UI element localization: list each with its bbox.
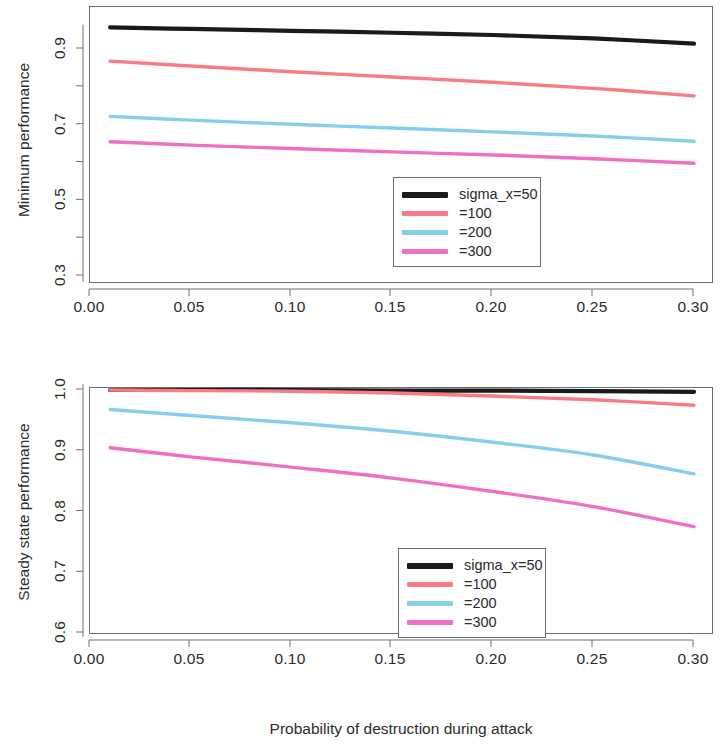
legend-item: =200 [402,223,530,242]
legend-minimum-performance: sigma_x=50=100=200=300 [393,177,541,267]
x-axis-title: Probability of destruction during attack [270,720,533,738]
legend-item-label: =300 [464,615,497,630]
legend-color-swatch [402,192,448,198]
axis-ticks [0,0,722,374]
chart-panel-steady-state-performance: 0.000.050.100.150.200.250.300.60.70.80.9… [0,374,722,748]
legend-item-label: sigma_x=50 [464,558,543,573]
legend-item-label: =100 [459,206,492,221]
legend-steady-state-performance: sigma_x=50=100=200=300 [398,548,546,638]
legend-color-swatch [407,620,453,625]
axis-ticks [0,374,722,748]
legend-item: sigma_x=50 [407,556,535,575]
legend-color-swatch [402,249,448,254]
figure-panel-group: 0.000.050.100.150.200.250.300.30.50.70.9… [0,0,722,748]
legend-item: =100 [402,204,530,223]
legend-color-swatch [407,601,453,606]
legend-item-label: =100 [464,577,497,592]
legend-color-swatch [407,563,453,569]
legend-item-label: sigma_x=50 [459,187,538,202]
legend-color-swatch [402,211,448,216]
chart-panel-minimum-performance: 0.000.050.100.150.200.250.300.30.50.70.9… [0,0,722,374]
legend-item: =300 [407,613,535,632]
legend-item-label: =200 [464,596,497,611]
legend-item-label: =200 [459,225,492,240]
legend-color-swatch [402,230,448,235]
legend-item: sigma_x=50 [402,185,530,204]
legend-color-swatch [407,582,453,587]
legend-item: =100 [407,575,535,594]
y-axis-title-minimum-performance: Minimum performance [15,63,33,217]
legend-item: =300 [402,242,530,261]
y-axis-title-steady-state-performance: Steady state performance [15,423,33,601]
legend-item-label: =300 [459,244,492,259]
legend-item: =200 [407,594,535,613]
